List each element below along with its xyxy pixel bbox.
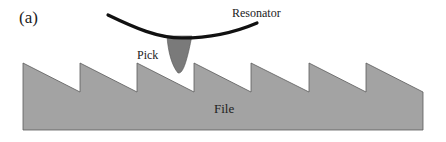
file-shape [23,63,423,130]
file-label: File [214,101,234,117]
pick-label: Pick [137,48,158,63]
diagram-svg [0,0,446,142]
resonator-label: Resonator [232,6,281,21]
panel-label: (a) [19,8,38,28]
pick-shape [167,36,192,73]
diagram-canvas: (a) Resonator Pick File [0,0,446,142]
